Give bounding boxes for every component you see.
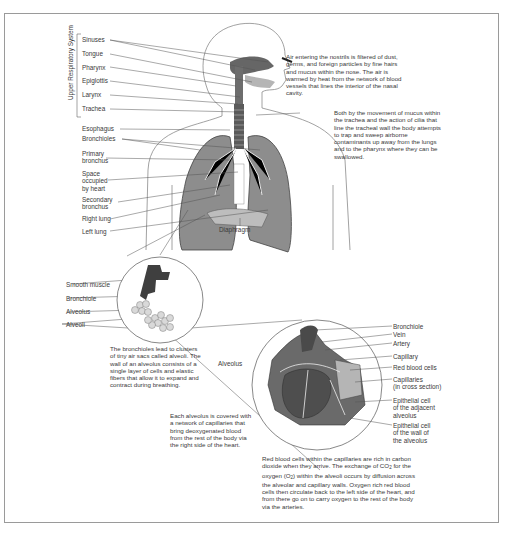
label-alveoli: Alveoli	[66, 321, 85, 328]
label-right-lung: Right lung	[82, 215, 111, 222]
lungs	[179, 136, 291, 252]
trachea-cilia-note: Both by the movement of mucus within the…	[334, 109, 446, 160]
label-epithelial-adjacent: Epithelial cell of the adjacent alveolus	[393, 397, 435, 419]
label-artery: Artery	[393, 340, 410, 347]
label-epithelial-wall: Epithelial cell of the wall of the alveo…	[393, 422, 430, 444]
respiratory-illustration	[0, 0, 516, 535]
label-sinuses: Sinuses	[82, 36, 105, 43]
label-vein: Vein	[393, 331, 405, 338]
label-larynx: Larynx	[82, 91, 101, 98]
label-left-lung: Left lung	[82, 228, 107, 235]
label-alveolus: Alveolus	[66, 308, 90, 315]
nasal-cavity-note: Air entering the nostrils is filtered of…	[286, 53, 406, 97]
label-primary-bronchus: Primary bronchus	[82, 150, 108, 165]
label-trachea: Trachea	[82, 105, 105, 112]
label-red-blood-cells: Red blood cells	[393, 364, 437, 371]
label-pharynx: Pharynx	[82, 64, 105, 71]
gas-exchange-note: Red blood cells within the capillaries a…	[262, 455, 420, 510]
bronchiole-note: The bronchioles lead to clusters of tiny…	[110, 345, 202, 389]
label-epiglottis: Epiglottis	[82, 77, 108, 84]
label-inset-alveolus: Alveolus	[218, 360, 242, 367]
label-inset-bronchiole: Bronchiole	[393, 323, 423, 330]
bronchiole-inset	[117, 257, 203, 343]
upper-respiratory-system-label: Upper Respiratory System	[67, 25, 74, 100]
label-capillary: Capillary	[393, 353, 418, 360]
label-diaphragm: Diaphragm	[219, 226, 250, 233]
label-smooth-muscle: Smooth muscle	[66, 281, 110, 288]
label-space-occupied-by-heart: Space occupied by heart	[82, 170, 108, 192]
trachea	[234, 104, 244, 149]
group-bracket	[77, 34, 81, 117]
label-secondary-bronchus: Secondary bronchus	[82, 196, 113, 211]
label-tongue: Tongue	[82, 50, 103, 57]
alveolus-inset	[252, 320, 382, 450]
label-capillaries-cross-section: Capillaries (in cross section)	[393, 376, 441, 391]
alveolus-capillary-note: Each alveolus is covered with a network …	[170, 412, 252, 448]
label-esophagus: Esophagus	[82, 125, 114, 132]
label-bronchiole: Bronchiole	[66, 295, 96, 302]
label-bronchioles: Bronchioles	[82, 135, 115, 142]
nasal-pharynx	[230, 56, 292, 106]
